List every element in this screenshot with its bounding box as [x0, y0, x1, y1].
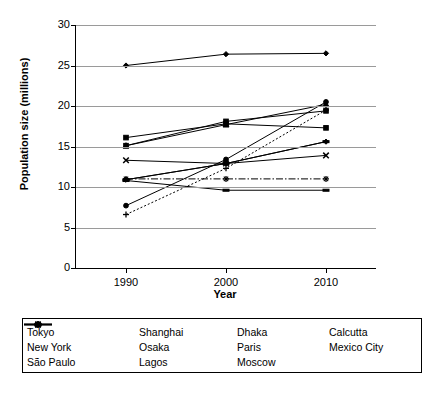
series-são-paulo: [123, 101, 329, 148]
x-tick-mark: [226, 268, 227, 273]
y-tick-mark: [71, 228, 76, 229]
legend-label: São Paulo: [27, 356, 75, 368]
gridline: [76, 228, 376, 229]
y-tick-label: 5: [46, 221, 70, 233]
legend-item-shanghai[interactable]: Shanghai: [139, 326, 237, 338]
series-osaka: [123, 176, 329, 182]
gridline: [76, 147, 376, 148]
chart-page: Population size (millions) 0510152025301…: [0, 0, 446, 395]
y-tick-mark: [71, 106, 76, 107]
legend-label: Calcutta: [329, 326, 368, 338]
x-tick-mark: [126, 268, 127, 273]
y-tick-mark: [71, 268, 76, 269]
legend-item-paris[interactable]: Paris: [237, 341, 329, 353]
legend-label: Mexico City: [329, 341, 383, 353]
x-axis-title: Year: [75, 288, 375, 300]
gridline: [76, 25, 376, 26]
y-tick-label: 0: [46, 261, 70, 273]
gridline: [76, 187, 376, 188]
legend-item-new-york[interactable]: New York: [27, 341, 139, 353]
legend-item-moscow[interactable]: Moscow: [237, 356, 329, 368]
legend-label: Paris: [237, 341, 261, 353]
legend-label: Lagos: [139, 356, 168, 368]
y-tick-label: 30: [46, 18, 70, 30]
gridline: [76, 106, 376, 107]
y-tick-mark: [71, 187, 76, 188]
chart-legend: TokyoShanghaiDhakaCalcuttaNew YorkOsakaP…: [22, 318, 422, 373]
y-tick-mark: [71, 147, 76, 148]
legend-item-mexico-city[interactable]: Mexico City: [329, 341, 425, 353]
gridline: [76, 66, 376, 67]
y-tick-mark: [71, 25, 76, 26]
y-tick-mark: [71, 66, 76, 67]
legend-item-osaka[interactable]: Osaka: [139, 341, 237, 353]
y-tick-label: 25: [46, 59, 70, 71]
y-axis-title: Population size (millions): [18, 39, 30, 209]
legend-item-dhaka[interactable]: Dhaka: [237, 326, 329, 338]
x-tick-label: 2010: [296, 276, 356, 288]
legend-item-lagos[interactable]: Lagos: [139, 356, 237, 368]
x-tick-label: 1990: [96, 276, 156, 288]
x-tick-mark: [326, 268, 327, 273]
series-mexico-city: [124, 109, 329, 148]
legend-label: Shanghai: [139, 326, 183, 338]
plot-area: 051015202530199020002010: [75, 25, 376, 269]
legend-label: Moscow: [237, 356, 276, 368]
legend-symbol: [23, 319, 53, 330]
line-chart: Population size (millions) 0510152025301…: [0, 0, 446, 308]
y-tick-label: 15: [46, 140, 70, 152]
x-tick-label: 2000: [196, 276, 256, 288]
legend-item-calcutta[interactable]: Calcutta: [329, 326, 425, 338]
y-tick-label: 20: [46, 99, 70, 111]
legend-label: Osaka: [139, 341, 169, 353]
y-tick-label: 10: [46, 180, 70, 192]
series-lagos: [124, 100, 329, 208]
legend-label: New York: [27, 341, 71, 353]
legend-item-são-paulo[interactable]: São Paulo: [27, 356, 139, 368]
legend-label: Dhaka: [237, 326, 267, 338]
